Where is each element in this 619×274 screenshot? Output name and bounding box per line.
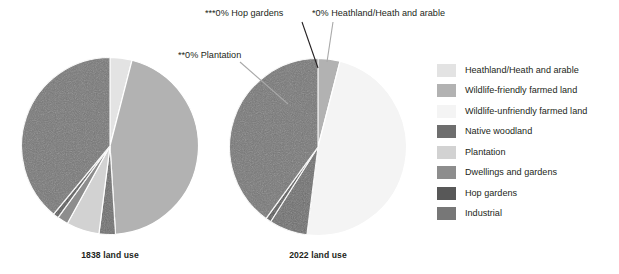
legend-swatch: [437, 105, 456, 118]
callout-hop-gardens: ***0% Hop gardens: [205, 8, 283, 18]
legend-label: Native woodland: [465, 127, 532, 136]
legend-swatch: [437, 64, 456, 77]
legend-label: Wildlife-friendly farmed land: [465, 86, 577, 95]
legend-item: Hop gardens: [437, 183, 617, 204]
legend-swatch: [437, 84, 456, 97]
legend-item: Heathland/Heath and arable: [437, 60, 617, 81]
legend-label: Heathland/Heath and arable: [465, 66, 579, 75]
legend: Heathland/Heath and arableWildlife-frien…: [437, 60, 617, 224]
legend-swatch: [437, 125, 456, 138]
legend-item: Dwellings and gardens: [437, 163, 617, 184]
pie-caption-1838: 1838 land use: [40, 250, 180, 260]
legend-label: Hop gardens: [465, 189, 517, 198]
legend-swatch: [437, 187, 456, 200]
callout-plantation: **0% Plantation: [178, 50, 241, 60]
legend-swatch: [437, 166, 456, 179]
legend-item: Plantation: [437, 142, 617, 163]
callout-heathland: *0% Heathland/Heath and arable: [312, 8, 445, 18]
legend-item: Native woodland: [437, 122, 617, 143]
legend-item: Wildlife-unfriendly farmed land: [437, 101, 617, 122]
legend-label: Dwellings and gardens: [465, 168, 557, 177]
pie-chart-1838: [21, 57, 199, 235]
legend-item: Industrial: [437, 204, 617, 225]
pie-2022-svg: [229, 58, 407, 236]
legend-swatch: [437, 146, 456, 159]
legend-label: Plantation: [465, 148, 505, 157]
figure-canvas: ***0% Hop gardens *0% Heathland/Heath an…: [0, 0, 619, 274]
legend-label: Industrial: [465, 209, 502, 218]
pie-caption-2022: 2022 land use: [248, 250, 388, 260]
legend-swatch: [437, 207, 456, 220]
pie-chart-2022: [229, 58, 407, 236]
leader-line-heath: [327, 22, 333, 62]
legend-item: Wildlife-friendly farmed land: [437, 81, 617, 102]
pie-1838-svg: [21, 57, 199, 235]
legend-label: Wildlife-unfriendly farmed land: [465, 107, 587, 116]
